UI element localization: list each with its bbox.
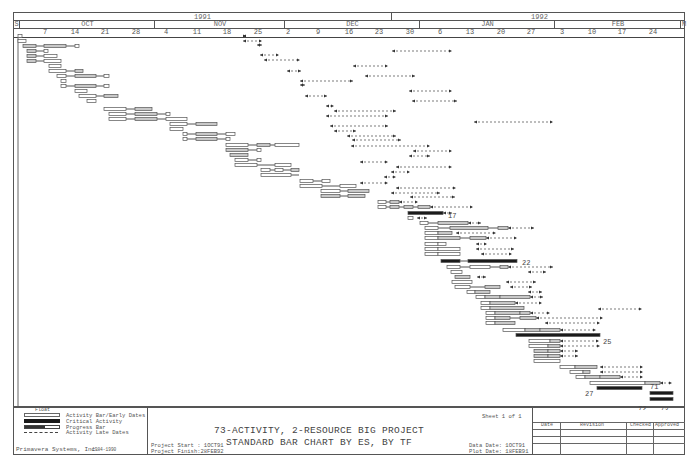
activity-bar xyxy=(486,322,515,325)
legend-swatch-critical xyxy=(24,419,60,423)
late-date-arrow xyxy=(399,201,418,204)
activity-bar xyxy=(486,312,530,315)
activity-bar xyxy=(49,65,61,68)
activity-bar xyxy=(109,113,170,116)
chart-title: 73-ACTIVITY, 2-RESOURCE BIG PROJECT xyxy=(164,425,474,436)
activity-bar xyxy=(455,286,500,289)
activity-bar xyxy=(529,340,560,343)
late-date-arrow xyxy=(243,40,262,43)
activity-bar xyxy=(226,144,299,147)
late-date-arrow xyxy=(326,105,334,108)
activity-bar xyxy=(183,133,235,136)
activity-bar xyxy=(321,190,369,193)
activity-bar xyxy=(27,60,61,63)
late-date-arrow xyxy=(326,115,388,118)
revision-table: Date Revision Checked Approved xyxy=(533,418,685,455)
activity-bar xyxy=(481,302,515,305)
late-date-arrow xyxy=(660,382,672,385)
activity-bar xyxy=(476,296,530,299)
late-date-arrow xyxy=(396,166,452,169)
company-name: Primavera Systems, Inc. xyxy=(16,446,99,453)
activity-bar xyxy=(425,237,486,240)
late-date-arrow xyxy=(243,35,246,38)
late-date-arrow xyxy=(560,345,600,348)
late-date-arrow xyxy=(410,196,455,199)
activity-bar xyxy=(104,108,152,111)
late-date-arrow xyxy=(598,308,642,311)
activity-bar xyxy=(27,50,48,53)
activity-bar xyxy=(650,398,673,401)
late-date-arrow xyxy=(417,217,427,220)
activity-bar xyxy=(378,206,430,209)
activity-bar xyxy=(109,118,187,121)
late-date-arrow xyxy=(468,222,481,225)
late-date-arrow xyxy=(530,296,543,299)
late-date-arrow xyxy=(351,145,430,148)
late-date-arrow xyxy=(560,355,578,358)
late-date-arrow xyxy=(481,253,512,256)
late-date-arrow xyxy=(260,54,279,57)
activity-bar xyxy=(79,95,118,98)
activity-annotation: 71 xyxy=(650,383,658,391)
late-date-arrow xyxy=(412,100,457,103)
late-date-arrow xyxy=(486,237,517,240)
activity-bar xyxy=(49,70,83,73)
activity-bar xyxy=(27,55,57,58)
activity-annotation: 27 xyxy=(585,390,593,398)
activity-bar xyxy=(420,222,468,225)
activity-bar xyxy=(321,195,365,198)
title-block: Float Activity Bar/Early Dates Critical … xyxy=(13,407,685,455)
late-date-arrow xyxy=(409,90,452,93)
late-date-arrow xyxy=(360,182,388,185)
late-date-arrow xyxy=(508,266,553,269)
late-date-arrow xyxy=(515,302,542,305)
activity-bar xyxy=(18,40,26,43)
legend-item-4: Activity Late Dates xyxy=(66,429,129,436)
late-date-arrow xyxy=(545,322,600,325)
activity-bar xyxy=(230,154,248,157)
activity-bar xyxy=(570,371,590,374)
activity-bar xyxy=(486,317,536,320)
activity-bar xyxy=(529,345,560,348)
activity-bar xyxy=(425,253,460,256)
late-date-arrow xyxy=(287,70,301,73)
activity-bar xyxy=(18,35,22,38)
late-date-arrow xyxy=(528,291,542,294)
late-date-arrow xyxy=(384,176,396,179)
late-date-arrow xyxy=(600,371,643,374)
activity-bar xyxy=(57,75,109,78)
activity-bar xyxy=(425,248,460,251)
late-date-arrow xyxy=(456,232,496,235)
late-date-arrow xyxy=(305,95,327,98)
activity-bar xyxy=(61,85,109,88)
late-date-arrow xyxy=(510,286,532,289)
late-date-arrow xyxy=(536,317,603,320)
sheet-number: Sheet 1 of 1 xyxy=(482,413,522,420)
activity-bar xyxy=(425,232,452,235)
late-date-arrow xyxy=(334,130,356,133)
legend-swatch-open xyxy=(24,413,60,417)
late-date-arrow xyxy=(600,366,643,369)
late-date-arrow xyxy=(257,44,262,47)
activity-bar xyxy=(408,217,413,220)
activity-bar xyxy=(300,185,356,188)
activity-bar xyxy=(61,80,66,83)
activity-annotation: 25 xyxy=(603,338,611,346)
activity-bar xyxy=(576,376,620,379)
activity-bar xyxy=(408,212,443,215)
activity-bar xyxy=(451,271,462,274)
late-date-arrow xyxy=(508,227,534,230)
rev-col-checked: Checked xyxy=(630,422,651,428)
activity-bar xyxy=(183,138,230,141)
activity-bar xyxy=(170,123,217,126)
late-date-arrow xyxy=(264,59,300,62)
late-date-arrow xyxy=(474,121,553,124)
legend-late-arrow-icon xyxy=(24,432,58,433)
late-date-arrow xyxy=(360,161,388,164)
rev-col-approved: Approved xyxy=(655,422,679,428)
activity-bar xyxy=(516,334,600,337)
plot-date: Plot Date: 18FEB91 xyxy=(469,448,528,455)
activity-bar xyxy=(503,329,560,332)
late-date-arrow xyxy=(560,350,578,353)
late-date-arrow xyxy=(560,340,599,343)
